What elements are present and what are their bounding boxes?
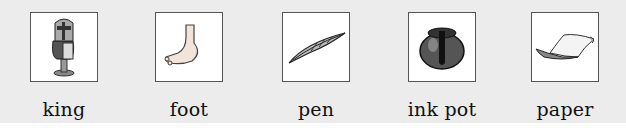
card-label: foot xyxy=(129,98,249,120)
ink-pot-icon xyxy=(409,13,475,81)
paper-scroll-icon xyxy=(532,13,598,81)
card-label: king xyxy=(4,98,124,120)
card-ink-pot: ink pot xyxy=(408,12,476,82)
card-label: paper xyxy=(505,98,625,120)
quill-pen-icon xyxy=(283,13,349,81)
card-paper: paper xyxy=(531,12,599,82)
card-label: ink pot xyxy=(382,98,502,120)
card-label: pen xyxy=(256,98,376,120)
card-pen: pen xyxy=(282,12,350,82)
picture-box xyxy=(155,12,223,82)
picture-box xyxy=(30,12,98,82)
card-king: king xyxy=(30,12,98,82)
vocabulary-panel: king foot pen xyxy=(0,0,626,123)
picture-box xyxy=(282,12,350,82)
card-foot: foot xyxy=(155,12,223,82)
picture-box xyxy=(408,12,476,82)
foot-icon xyxy=(156,13,222,81)
king-icon xyxy=(31,13,97,81)
picture-box xyxy=(531,12,599,82)
